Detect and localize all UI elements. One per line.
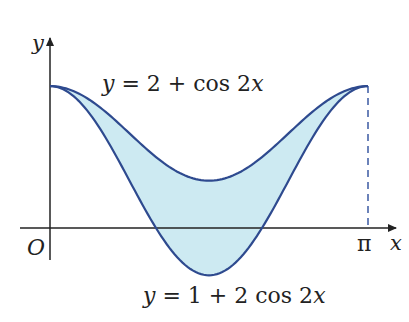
pi-label: π	[357, 231, 371, 256]
y-axis-label: y	[31, 31, 45, 55]
origin-label: O	[27, 235, 45, 260]
upper-curve-label: y = 2 + cos 2x	[101, 71, 264, 96]
x-axis-label: x	[390, 231, 402, 255]
diagram-canvas: y x O π y = 2 + cos 2x y = 1 + 2 cos 2x	[0, 0, 409, 322]
curve-upper	[50, 86, 368, 181]
lower-curve-label: y = 1 + 2 cos 2x	[142, 283, 326, 308]
